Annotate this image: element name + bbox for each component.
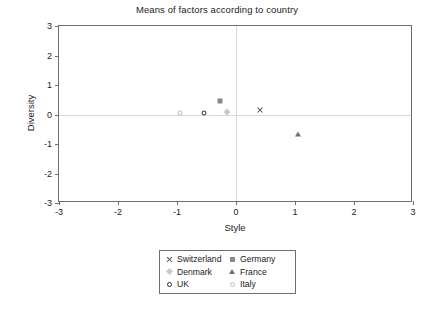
data-point-switzerland (256, 107, 263, 114)
legend-swatch (165, 255, 173, 263)
cross-x-marker-icon (166, 256, 173, 263)
data-point-uk (201, 111, 206, 116)
legend-entry-switzerland[interactable]: Switzerland (165, 255, 228, 264)
y-axis-tick-label: 2 (47, 51, 52, 61)
triangle-marker-icon (229, 269, 235, 274)
x-axis-tick-label: -1 (173, 207, 181, 217)
x-axis-tick (413, 201, 414, 205)
legend-entry-uk[interactable]: UK (165, 280, 228, 289)
y-axis-tick (55, 144, 59, 145)
legend: SwitzerlandGermanyDenmarkFranceUKItaly (159, 250, 296, 294)
x-axis-tick (118, 201, 119, 205)
legend-label: Denmark (177, 268, 212, 277)
y-axis-tick-label: 0 (47, 110, 52, 120)
diamond-marker-icon (165, 268, 172, 275)
data-point-france (295, 131, 301, 136)
zero-line-horizontal (59, 115, 411, 116)
x-axis-tick (177, 201, 178, 205)
x-axis-tick-label: 1 (292, 207, 297, 217)
y-axis-tick-label: -3 (44, 198, 52, 208)
x-axis-tick-label: 2 (351, 207, 356, 217)
legend-entry-germany[interactable]: Germany (228, 255, 291, 264)
plot-area: 3210-1-2-3-3-2-10123 (58, 25, 412, 202)
x-axis-tick-label: -2 (114, 207, 122, 217)
x-axis-tick (59, 201, 60, 205)
data-point-germany (218, 99, 223, 104)
circle-open-marker-icon (167, 282, 172, 287)
square-marker-icon (230, 257, 235, 262)
legend-label: France (240, 268, 267, 277)
y-axis-tick-label: -2 (44, 169, 52, 179)
x-axis-tick (295, 201, 296, 205)
page-title: Means of factors according to country (0, 4, 434, 15)
legend-swatch (228, 281, 236, 289)
y-axis-tick (55, 85, 59, 86)
y-axis-label: Diversity (25, 95, 36, 131)
zero-line-vertical (236, 26, 237, 201)
x-axis-tick-label: -3 (55, 207, 63, 217)
x-axis-tick-label: 3 (410, 207, 415, 217)
legend-entry-denmark[interactable]: Denmark (165, 268, 228, 277)
scatter-plot-figure: Means of factors according to country 32… (0, 0, 434, 314)
legend-entry-france[interactable]: France (228, 268, 291, 277)
y-axis-tick-label: 3 (47, 21, 52, 31)
circle-open-marker-icon (230, 282, 235, 287)
legend-label: Italy (240, 280, 256, 289)
x-axis-tick (236, 201, 237, 205)
legend-label: UK (177, 280, 189, 289)
legend-label: Switzerland (177, 255, 221, 264)
legend-label: Germany (240, 255, 275, 264)
legend-swatch (165, 268, 173, 276)
y-axis-tick-label: -1 (44, 139, 52, 149)
legend-swatch (228, 268, 236, 276)
y-axis-tick (55, 26, 59, 27)
legend-entry-italy[interactable]: Italy (228, 280, 291, 289)
legend-swatch (228, 255, 236, 263)
legend-swatch (165, 281, 173, 289)
y-axis-tick (55, 174, 59, 175)
x-axis-tick-label: 0 (233, 207, 238, 217)
data-point-italy (177, 111, 182, 116)
x-axis-label: Style (58, 222, 412, 233)
y-axis-tick (55, 56, 59, 57)
y-axis-tick-label: 1 (47, 80, 52, 90)
x-axis-tick (354, 201, 355, 205)
y-axis-tick (55, 115, 59, 116)
